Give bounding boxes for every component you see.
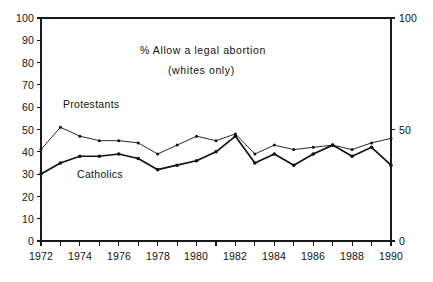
data-point-catholics-1982 (234, 134, 238, 138)
data-point-protestants-1974 (78, 135, 81, 138)
data-point-catholics-1984 (273, 152, 277, 156)
x-axis-label-1986: 1986 (293, 250, 333, 262)
x-axis-label-1974: 1974 (60, 250, 100, 262)
x-axis-label-1990: 1990 (371, 250, 411, 262)
y-axis-label-right-50: 50 (399, 124, 429, 136)
x-axis-label-1976: 1976 (99, 250, 139, 262)
y-axis-label-left-40: 40 (8, 146, 34, 158)
x-axis-label-1972: 1972 (21, 250, 61, 262)
data-point-catholics-1976 (117, 152, 121, 156)
y-axis-label-left-60: 60 (8, 101, 34, 113)
data-point-protestants-1980 (195, 135, 198, 138)
data-point-protestants-1976 (117, 139, 120, 142)
data-point-protestants-1990 (390, 137, 393, 140)
data-point-catholics-1981 (214, 150, 218, 154)
data-point-catholics-1990 (389, 163, 393, 167)
data-point-protestants-1989 (370, 141, 373, 144)
y-axis-label-left-70: 70 (8, 79, 34, 91)
y-axis-label-right-100: 100 (399, 12, 429, 24)
data-point-protestants-1975 (98, 139, 101, 142)
data-point-protestants-1973 (59, 126, 62, 129)
data-point-catholics-1973 (59, 161, 63, 165)
data-point-catholics-1985 (292, 163, 296, 167)
x-axis-label-1978: 1978 (138, 250, 178, 262)
data-point-catholics-1974 (78, 154, 82, 158)
x-axis-label-1980: 1980 (176, 250, 216, 262)
y-axis-label-left-80: 80 (8, 57, 34, 69)
data-point-protestants-1986 (312, 146, 315, 149)
series-label-catholics: Catholics (77, 168, 123, 180)
data-point-protestants-1972 (40, 148, 43, 151)
y-axis-label-left-50: 50 (8, 124, 34, 136)
chart-subtitle: (whites only) (168, 64, 235, 76)
data-point-catholics-1978 (156, 168, 160, 172)
data-point-catholics-1987 (331, 143, 335, 147)
data-point-protestants-1984 (273, 144, 276, 147)
data-point-catholics-1979 (175, 163, 179, 167)
data-point-protestants-1983 (253, 153, 256, 156)
y-axis-label-right-0: 0 (399, 235, 429, 247)
data-point-catholics-1972 (39, 172, 43, 176)
y-axis-label-left-10: 10 (8, 213, 34, 225)
y-axis-label-left-30: 30 (8, 168, 34, 180)
series-label-protestants: Protestants (63, 98, 119, 110)
data-point-protestants-1981 (215, 139, 218, 142)
data-point-catholics-1975 (98, 154, 102, 158)
x-axis-label-1988: 1988 (332, 250, 372, 262)
chart-title: % Allow a legal abortion (140, 44, 266, 56)
data-point-catholics-1980 (195, 159, 199, 163)
data-point-catholics-1983 (253, 161, 257, 165)
x-axis-label-1982: 1982 (215, 250, 255, 262)
x-axis-label-1984: 1984 (254, 250, 294, 262)
y-axis-label-left-100: 100 (8, 12, 34, 24)
data-point-protestants-1978 (156, 153, 159, 156)
y-axis-label-left-0: 0 (8, 235, 34, 247)
data-point-catholics-1977 (136, 157, 140, 161)
chart-figure: 100 90 80 70 60 50 40 30 20 10 0 100 50 … (0, 0, 433, 282)
data-point-protestants-1977 (137, 141, 140, 144)
y-axis-label-left-20: 20 (8, 191, 34, 203)
data-point-catholics-1986 (311, 152, 315, 156)
chart-plot-area (0, 0, 433, 282)
data-point-protestants-1979 (176, 144, 179, 147)
y-axis-label-left-90: 90 (8, 34, 34, 46)
data-point-catholics-1988 (350, 154, 354, 158)
data-point-catholics-1989 (370, 146, 374, 150)
data-point-protestants-1988 (351, 148, 354, 151)
data-point-protestants-1985 (292, 148, 295, 151)
